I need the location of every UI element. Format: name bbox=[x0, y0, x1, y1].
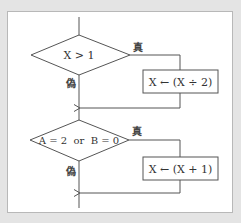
decision-1-condition: X > 1 bbox=[63, 49, 94, 62]
branch-2-return-path bbox=[80, 180, 180, 193]
branch-1-return-path bbox=[80, 93, 180, 108]
branch-2-true-path bbox=[129, 140, 180, 157]
process-1-text: X ← (X ÷ 2) bbox=[149, 76, 213, 89]
decision-2-true-label: 真 bbox=[132, 125, 142, 137]
process-1: X ← (X ÷ 2) bbox=[143, 70, 218, 93]
decision-2: A = 2 or B = 0 真 偽 bbox=[30, 120, 142, 177]
process-2: X ← (X + 1) bbox=[143, 157, 218, 180]
flowchart: X > 1 真 偽 X ← (X ÷ 2) A = 2 or B = 0 真 偽… bbox=[0, 0, 241, 223]
decision-2-condition: A = 2 or B = 0 bbox=[38, 135, 119, 146]
process-2-text: X ← (X + 1) bbox=[149, 163, 213, 176]
decision-1-false-label: 偽 bbox=[65, 77, 76, 89]
decision-1-true-label: 真 bbox=[133, 41, 143, 53]
branch-1-true-path bbox=[130, 55, 180, 70]
decision-1: X > 1 真 偽 bbox=[31, 35, 143, 89]
decision-2-false-label: 偽 bbox=[65, 165, 76, 177]
